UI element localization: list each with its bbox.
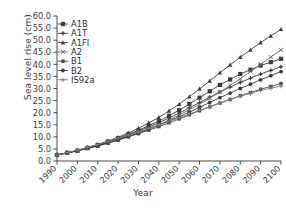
x-tick-label: 2100 xyxy=(261,163,283,185)
y-axis-title: Sea level rise (cm) xyxy=(23,3,33,111)
marker-triangle xyxy=(258,40,262,44)
y-tick-label: 25.0 xyxy=(33,96,51,106)
marker-square xyxy=(279,57,283,61)
marker-plus-dot xyxy=(260,73,262,75)
series-line xyxy=(57,29,281,155)
marker-square xyxy=(61,22,65,26)
marker-triangle xyxy=(177,102,181,106)
marker-circle xyxy=(208,101,212,105)
marker-triangle xyxy=(218,70,222,74)
y-tick-label: 20.0 xyxy=(33,108,51,118)
marker-square xyxy=(269,60,273,64)
chart-canvas: 0.05.010.015.020.025.030.035.040.045.050… xyxy=(0,0,286,211)
y-tick-label: 5.0 xyxy=(38,144,51,154)
x-tick-label: 2070 xyxy=(200,163,222,185)
marker-plus-dot xyxy=(62,32,64,34)
x-tick-label: 2090 xyxy=(240,163,262,185)
marker-square xyxy=(187,102,191,106)
series-a1b xyxy=(55,57,283,157)
marker-triangle xyxy=(187,94,191,98)
marker-triangle xyxy=(248,47,252,51)
x-axis-title: Year xyxy=(0,188,286,198)
marker-circle xyxy=(269,74,273,78)
marker-square xyxy=(218,83,222,87)
marker-circle xyxy=(259,78,263,82)
x-tick-label: 2060 xyxy=(179,163,201,185)
marker-triangle xyxy=(167,108,171,112)
sea-level-rise-chart: 0.05.010.015.020.025.030.035.040.045.050… xyxy=(0,0,286,211)
x-tick-label: 2080 xyxy=(220,163,242,185)
y-tick-label: 50.0 xyxy=(33,35,51,45)
marker-square xyxy=(61,60,64,63)
marker-triangle xyxy=(228,63,232,67)
marker-plus-dot xyxy=(270,69,272,71)
marker-circle xyxy=(279,70,283,74)
marker-triangle xyxy=(136,126,140,130)
y-tick-label: 60.0 xyxy=(33,11,51,21)
marker-square xyxy=(238,72,242,76)
series-line xyxy=(57,50,281,155)
y-tick-label: 45.0 xyxy=(33,47,51,57)
marker-triangle xyxy=(146,121,150,125)
y-tick-label: 35.0 xyxy=(33,72,51,82)
legend-label-is92a: IS92a xyxy=(71,75,95,85)
x-tick-label: 2010 xyxy=(77,163,99,185)
marker-triangle xyxy=(269,34,273,38)
y-tick-label: 30.0 xyxy=(33,84,51,94)
marker-square xyxy=(228,77,232,81)
marker-circle xyxy=(218,96,222,100)
series-line xyxy=(57,59,281,155)
x-tick-label: 2000 xyxy=(57,163,79,185)
marker-circle xyxy=(228,91,232,95)
x-tick-label: 2020 xyxy=(98,163,120,185)
series-a2 xyxy=(55,48,283,157)
marker-circle xyxy=(238,87,242,91)
marker-plus-dot xyxy=(280,66,282,68)
y-tick-label: 15.0 xyxy=(33,120,51,130)
y-tick-label: 10.0 xyxy=(33,132,51,142)
x-tick-label: 2030 xyxy=(118,163,140,185)
x-tick-label: 2050 xyxy=(159,163,181,185)
x-tick-label: 2040 xyxy=(138,163,160,185)
marker-circle xyxy=(249,82,253,86)
chart-legend: A1BA1TA1FIA2B1B2IS92a xyxy=(58,19,95,85)
marker-square xyxy=(197,96,201,100)
marker-circle xyxy=(61,69,65,73)
marker-plus-dot xyxy=(249,77,251,79)
marker-triangle xyxy=(279,27,283,31)
marker-triangle xyxy=(157,115,161,119)
marker-square xyxy=(208,89,212,93)
marker-plus-dot xyxy=(239,81,241,83)
marker-triangle xyxy=(238,55,242,59)
x-tick-label: 1990 xyxy=(37,163,59,185)
y-tick-label: 40.0 xyxy=(33,60,51,70)
y-tick-label: 55.0 xyxy=(33,23,51,33)
